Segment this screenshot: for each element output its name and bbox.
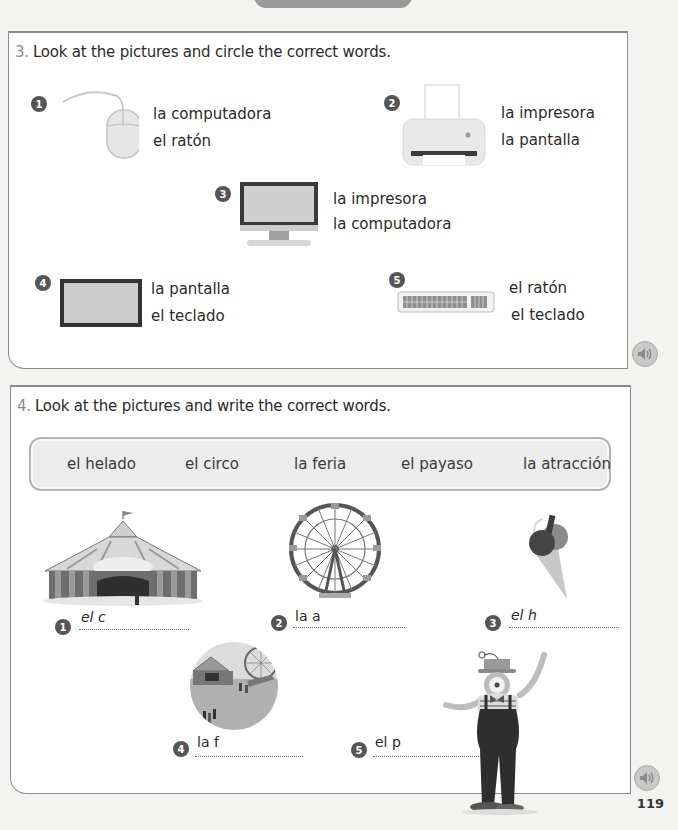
audio-button[interactable] [634, 765, 660, 791]
printer-icon [401, 83, 491, 171]
answer-prompt: la f [197, 734, 219, 750]
answer-line-4[interactable] [195, 756, 303, 757]
option-word[interactable]: el ratón [509, 279, 567, 297]
item-badge-1: 1 [31, 96, 47, 112]
option-word[interactable]: el teclado [151, 307, 225, 325]
item-badge-4: 4 [173, 741, 189, 757]
circus-tent-icon [37, 509, 209, 609]
word-bank-item: la feria [294, 455, 346, 473]
option-word[interactable]: la computadora [333, 215, 451, 233]
option-word[interactable]: la pantalla [151, 280, 230, 298]
ice-cream-cone-icon [521, 513, 581, 603]
answer-prompt: la a [295, 608, 321, 624]
option-word[interactable]: la impresora [501, 104, 595, 122]
answer-prompt: el p [375, 734, 401, 750]
keyboard-icon [397, 291, 495, 315]
word-bank: el helado el circo la feria el payaso la… [29, 437, 611, 491]
screen-icon [60, 279, 142, 327]
item-badge-5: 5 [389, 272, 405, 288]
exercise-number: 4. [17, 397, 31, 415]
answer-line-2[interactable] [293, 627, 405, 628]
word-bank-item: la atracción [523, 455, 611, 473]
clown-icon [436, 645, 556, 817]
option-word[interactable]: la pantalla [501, 131, 580, 149]
answer-prompt: el c [81, 609, 106, 625]
item-badge-3: 3 [485, 615, 501, 631]
word-bank-item: el payaso [401, 455, 473, 473]
page-top-tab [254, 0, 412, 8]
word-bank-item: el circo [185, 455, 239, 473]
page-number: 119 [637, 796, 664, 811]
exercise-3-box: 3.Look at the pictures and circle the co… [8, 31, 628, 369]
desktop-computer-icon [239, 181, 319, 249]
ferris-wheel-icon [285, 503, 385, 601]
speaker-icon [637, 347, 653, 361]
exercise-4-instruction: 4.Look at the pictures and write the cor… [17, 397, 391, 415]
item-badge-2: 2 [384, 95, 400, 111]
computer-mouse-icon [59, 88, 139, 160]
option-word[interactable]: el ratón [153, 132, 211, 150]
option-word[interactable]: el teclado [511, 306, 585, 324]
option-word[interactable]: la impresora [333, 190, 427, 208]
item-badge-3: 3 [215, 186, 231, 202]
item-badge-2: 2 [271, 615, 287, 631]
item-badge-4: 4 [35, 275, 51, 291]
exercise-number: 3. [15, 43, 29, 61]
answer-prompt: el h [511, 607, 537, 623]
word-bank-item: el helado [67, 455, 136, 473]
item-badge-1: 1 [55, 619, 71, 635]
option-word[interactable]: la computadora [153, 105, 271, 123]
answer-line-3[interactable] [509, 627, 619, 628]
answer-line-1[interactable] [79, 629, 189, 630]
speaker-icon [639, 771, 655, 785]
item-badge-5: 5 [351, 742, 367, 758]
audio-button[interactable] [632, 341, 658, 367]
exercise-3-instruction: 3.Look at the pictures and circle the co… [15, 43, 391, 61]
fairground-icon [189, 641, 279, 731]
